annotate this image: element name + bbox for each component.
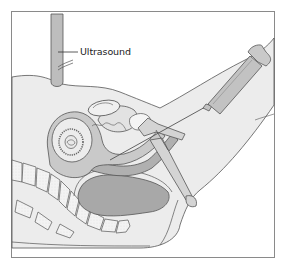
ultrasound-label: Ultrasound: [80, 46, 131, 57]
medical-illustration: [0, 0, 281, 265]
